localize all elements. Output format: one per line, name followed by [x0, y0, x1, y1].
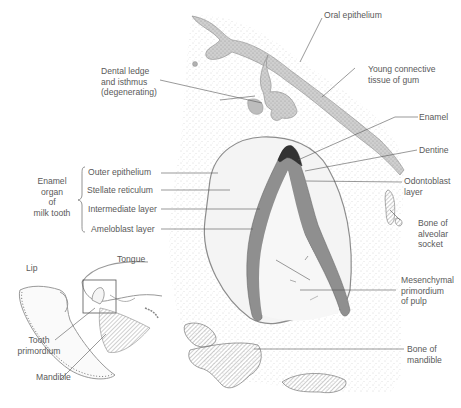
label-line: Bone of — [418, 218, 448, 229]
label-enamel: Enamel — [419, 112, 448, 123]
label-line: layer — [404, 187, 450, 198]
label-mesenchymal-primordium: Mesenchymal primordium of pulp — [401, 275, 454, 307]
label-line: of — [28, 197, 76, 208]
label-line: Tooth — [8, 335, 70, 346]
label-oral-epithelium: Oral epithelium — [324, 10, 382, 21]
label-ameloblast-layer: Ameloblast layer — [91, 224, 155, 235]
label-line: alveolar — [418, 229, 448, 240]
label-intermediate-layer: Intermediate layer — [88, 204, 157, 215]
label-line: Young connective — [368, 64, 436, 75]
label-line: primordium — [8, 346, 70, 357]
label-enamel-organ: Enamel organ of milk tooth — [28, 176, 76, 218]
label-dental-ledge: Dental ledge and isthmus (degenerating) — [101, 66, 157, 98]
label-stellate-reticulum: Stellate reticulum — [87, 185, 153, 196]
label-line: Mesenchymal — [401, 275, 454, 286]
label-line: Dental ledge — [101, 66, 157, 77]
label-line: of pulp — [401, 296, 454, 307]
label-line: mandible — [407, 355, 442, 366]
label-line: milk tooth — [28, 208, 76, 219]
label-young-connective-tissue: Young connective tissue of gum — [368, 64, 436, 85]
label-line: Enamel — [28, 176, 76, 187]
label-bone-alveolar-socket: Bone of alveolar socket — [418, 218, 448, 250]
label-bone-of-mandible: Bone of mandible — [407, 344, 442, 365]
label-dentine: Dentine — [419, 145, 449, 156]
enamel-organ-brace — [78, 167, 85, 232]
label-line: socket — [418, 239, 448, 250]
label-outer-epithelium: Outer epithelium — [88, 167, 151, 178]
label-odontoblast-layer: Odontoblast layer — [404, 176, 450, 197]
label-lip: Lip — [26, 263, 37, 274]
label-tooth-primordium: Tooth primordium — [8, 335, 70, 356]
label-line: organ — [28, 187, 76, 198]
label-line: Odontoblast — [404, 176, 450, 187]
label-line: Bone of — [407, 344, 442, 355]
label-tongue: Tongue — [117, 254, 145, 265]
inset-jaw-drawing — [19, 262, 162, 379]
label-line: primordium — [401, 286, 454, 297]
label-line: and isthmus — [101, 77, 157, 88]
label-line: (degenerating) — [101, 87, 157, 98]
label-line: tissue of gum — [368, 75, 436, 86]
label-mandible: Mandible — [36, 372, 71, 383]
